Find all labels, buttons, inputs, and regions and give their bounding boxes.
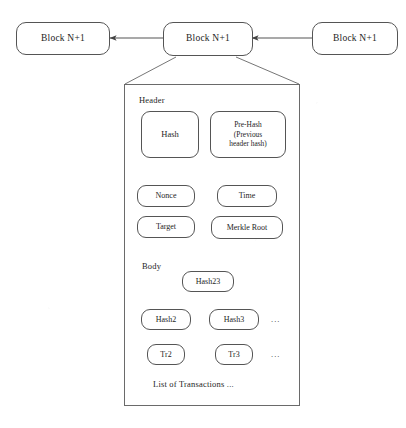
field-nonce[interactable]: Nonce [137, 185, 195, 207]
field-pre-hash[interactable]: Pre-Hash (Previous header hash) [210, 111, 286, 158]
expansion-line-left [125, 57, 176, 84]
field-time[interactable]: Time [217, 185, 277, 207]
field-time-label: Time [239, 191, 256, 200]
transactions-caption: List of Transactions ... [153, 379, 234, 389]
transaction-node-tr3-label: Tr3 [228, 350, 239, 359]
field-hash[interactable]: Hash [141, 111, 199, 158]
expansion-line-right [236, 57, 299, 84]
chain-block-left-label: Block N+1 [41, 33, 85, 44]
block-detail-panel: Header Hash Pre-Hash (Previous header ha… [124, 84, 300, 406]
chain-block-left[interactable]: Block N+1 [16, 22, 110, 55]
chain-block-middle[interactable]: Block N+1 [163, 22, 253, 56]
merkle-node-hash23[interactable]: Hash23 [182, 271, 234, 292]
merkle-node-hash2[interactable]: Hash2 [141, 309, 191, 330]
field-nonce-label: Nonce [156, 191, 177, 200]
diagram-canvas: Block N+1 Block N+1 Block N+1 Header Has… [0, 0, 406, 428]
transaction-node-tr3[interactable]: Tr3 [215, 344, 253, 365]
merkle-hash-row-ellipsis: ... [271, 314, 280, 324]
chain-block-right[interactable]: Block N+1 [312, 22, 398, 55]
body-section-label: Body [142, 261, 161, 271]
merkle-node-hash3[interactable]: Hash3 [209, 309, 259, 330]
merkle-node-hash23-label: Hash23 [196, 277, 220, 286]
chain-block-middle-label: Block N+1 [186, 33, 230, 44]
field-hash-label: Hash [161, 129, 178, 139]
field-target-label: Target [156, 222, 176, 231]
field-pre-hash-line1: Pre-Hash [234, 120, 262, 130]
field-pre-hash-line3: header hash) [229, 139, 267, 149]
field-pre-hash-line2: (Previous [234, 130, 262, 140]
field-target[interactable]: Target [137, 216, 195, 238]
field-merkle-root-label: Merkle Root [227, 223, 268, 232]
transaction-node-tr2-label: Tr2 [160, 350, 171, 359]
transaction-node-tr2[interactable]: Tr2 [147, 344, 185, 365]
field-merkle-root[interactable]: Merkle Root [211, 216, 283, 239]
transaction-row-ellipsis: ... [271, 349, 280, 359]
chain-block-right-label: Block N+1 [333, 33, 377, 44]
header-section-label: Header [139, 95, 165, 105]
merkle-node-hash2-label: Hash2 [156, 315, 176, 324]
merkle-node-hash3-label: Hash3 [224, 315, 244, 324]
